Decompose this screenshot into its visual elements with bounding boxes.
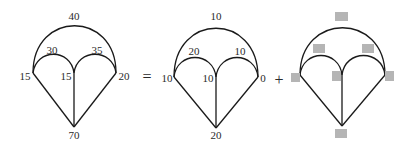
label-right-node: 20 [119,70,131,82]
right-arc [74,54,116,73]
right-edge [216,77,258,128]
blank-outer-arc [335,12,348,21]
left-edge [300,75,342,126]
label-bottom-node: 70 [69,129,81,141]
label-bottom-node: 20 [211,129,223,141]
blank-left-arc [313,44,325,53]
graph-second-term [291,12,394,138]
blank-left-node [291,73,300,82]
label-middle-node: 10 [203,72,215,84]
right-arc [216,58,258,78]
right-arc [342,56,385,76]
label-right-arc: 10 [235,45,247,57]
label-outer-arc: 10 [211,10,223,22]
diagram-canvas: 40 30 35 15 15 20 70 = 10 20 10 10 10 0 … [0,0,414,146]
label-left-node: 15 [20,70,32,82]
left-edge [174,77,216,128]
graph-total: 40 30 35 15 15 20 70 [20,10,131,141]
label-left-node: 10 [162,72,174,84]
label-left-arc: 20 [189,45,201,57]
label-right-arc: 35 [92,44,104,56]
blank-right-arc [362,44,374,53]
label-outer-arc: 40 [69,10,81,22]
label-left-arc: 30 [47,44,59,56]
blank-bottom-node [335,129,347,138]
outer-arc [33,26,116,73]
graph-first-term: 10 20 10 10 10 0 20 [162,10,267,141]
right-edge [342,75,385,126]
label-right-node: 0 [260,72,266,84]
plus-sign: + [274,71,283,88]
right-edge [74,73,116,127]
blank-right-node [385,71,394,81]
blank-middle-node [332,71,341,81]
label-middle-node: 15 [61,70,73,82]
equals-sign: = [142,68,151,85]
